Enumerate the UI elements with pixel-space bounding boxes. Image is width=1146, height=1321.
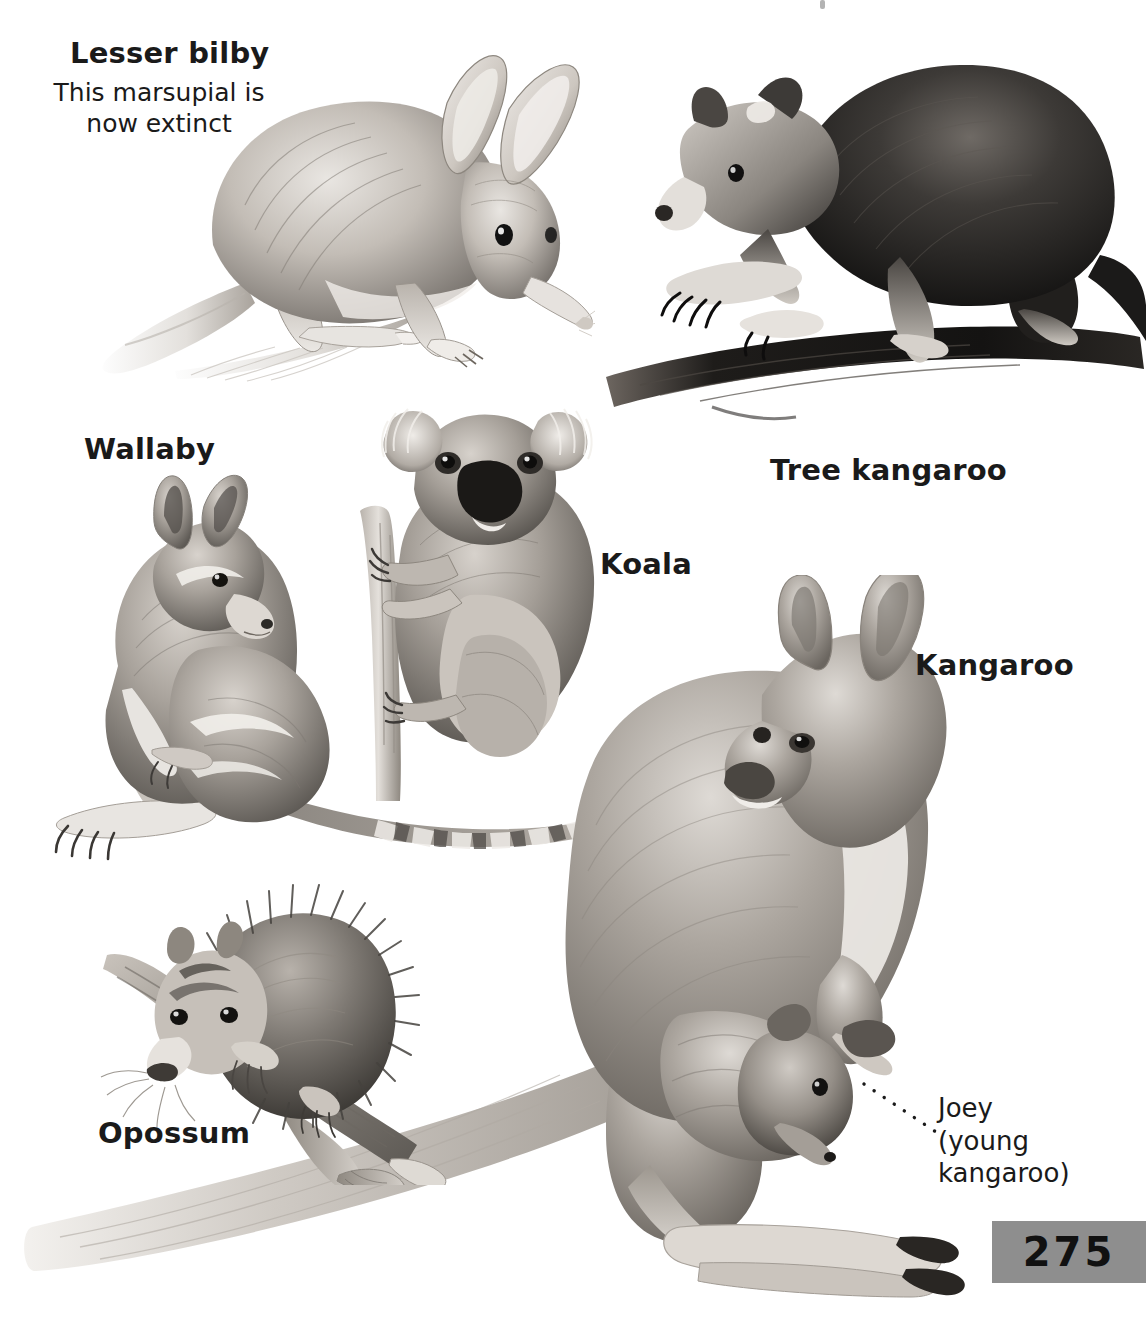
label-tree-kangaroo: Tree kangaroo xyxy=(770,455,1007,487)
label-wallaby: Wallaby xyxy=(84,434,215,466)
label-koala: Koala xyxy=(600,549,692,581)
page-edge-artifact xyxy=(820,0,825,9)
label-lesser-bilby: Lesser bilby xyxy=(70,38,269,70)
lesser-bilby-note-line-2: now extinct xyxy=(28,109,290,140)
label-lesser-bilby-note: This marsupial is now extinct xyxy=(28,78,290,139)
label-opossum: Opossum xyxy=(98,1118,250,1150)
page-number: 275 xyxy=(1023,1229,1116,1275)
tree-kangaroo-illustration xyxy=(600,25,1146,425)
callout-joey: Joey (young kangaroo) xyxy=(938,1092,1138,1190)
lesser-bilby-note-line-1: This marsupial is xyxy=(28,78,290,109)
label-kangaroo: Kangaroo xyxy=(915,650,1074,682)
encyclopedia-page: Lesser bilby This marsupial is now extin… xyxy=(0,0,1146,1321)
page-number-badge: 275 xyxy=(992,1221,1146,1283)
